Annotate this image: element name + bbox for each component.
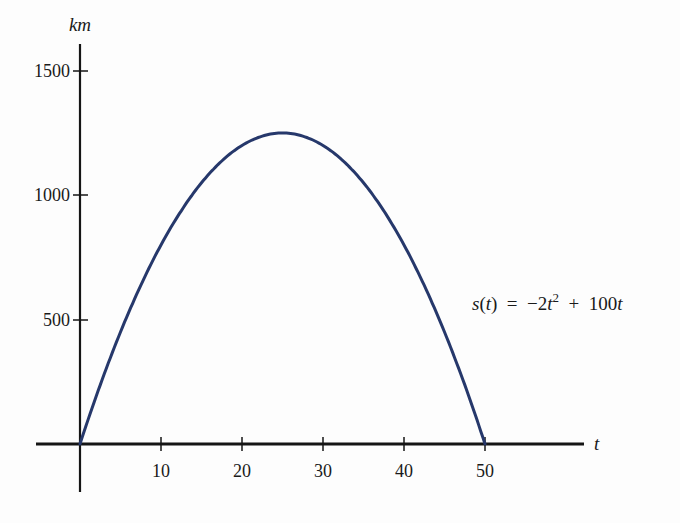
y-axis-label: km xyxy=(69,14,91,35)
parabola-curve xyxy=(80,35,485,444)
y-tick-label: 500 xyxy=(43,310,70,330)
x-tick-label: 20 xyxy=(233,461,251,481)
x-axis-label: t xyxy=(594,433,600,454)
chart: 10 20 30 40 50 500 1000 1500 km t s(t) =… xyxy=(0,0,680,523)
x-tick-label: 30 xyxy=(314,461,332,481)
x-tick-label: 10 xyxy=(152,461,170,481)
x-tick-label: 40 xyxy=(395,461,413,481)
x-tick-label: 50 xyxy=(476,461,494,481)
equation-label: s(t) = −2t2 + 100t xyxy=(472,290,623,315)
y-tick-label: 1000 xyxy=(34,185,70,205)
parabola-line xyxy=(80,133,485,444)
y-tick-label: 1500 xyxy=(34,61,70,81)
